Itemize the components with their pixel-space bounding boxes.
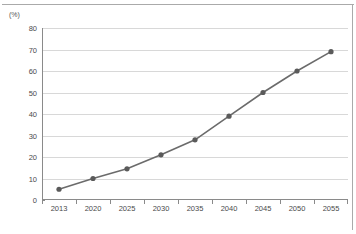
line-series	[42, 28, 348, 200]
chart-figure: (%) 01020304050607080 201320202025203020…	[0, 0, 356, 234]
x-axis-tick-label: 2030	[153, 204, 170, 213]
x-axis-tick-label: 2040	[221, 204, 238, 213]
data-point-marker	[124, 166, 129, 171]
figure-right-border	[352, 4, 353, 230]
y-axis-tick-label: 10	[29, 174, 37, 183]
y-axis-tick-label: 40	[29, 110, 37, 119]
data-point-marker	[328, 49, 333, 54]
plot-area	[42, 28, 348, 200]
data-point-marker	[294, 68, 299, 73]
data-point-marker	[226, 114, 231, 119]
y-axis-unit-label: (%)	[9, 11, 20, 18]
data-point-marker	[90, 176, 95, 181]
data-point-marker	[260, 90, 265, 95]
x-axis-tick-label: 2050	[289, 204, 306, 213]
y-axis-tick-label: 60	[29, 67, 37, 76]
y-axis-tick-label: 80	[29, 24, 37, 33]
x-axis-tick-label: 2035	[187, 204, 204, 213]
figure-top-border	[2, 4, 354, 5]
y-axis-tick-label: 50	[29, 88, 37, 97]
y-axis-tick-label: 0	[33, 196, 37, 205]
x-axis-tick-label: 2055	[323, 204, 340, 213]
series-line	[59, 52, 331, 190]
x-axis-tick-label: 2020	[85, 204, 102, 213]
data-point-marker	[192, 137, 197, 142]
x-axis-tick-labels: 201320202025203020352040204520502055	[42, 204, 348, 220]
x-axis-tick-label: 2025	[119, 204, 136, 213]
y-axis-tick-label: 70	[29, 45, 37, 54]
data-point-marker	[56, 187, 61, 192]
x-axis-tick-label: 2013	[51, 204, 68, 213]
y-axis-tick-label: 30	[29, 131, 37, 140]
data-point-marker	[158, 152, 163, 157]
x-axis-tick-label: 2045	[255, 204, 272, 213]
y-axis-tick-labels: 01020304050607080	[6, 28, 37, 200]
y-axis-tick-label: 20	[29, 153, 37, 162]
